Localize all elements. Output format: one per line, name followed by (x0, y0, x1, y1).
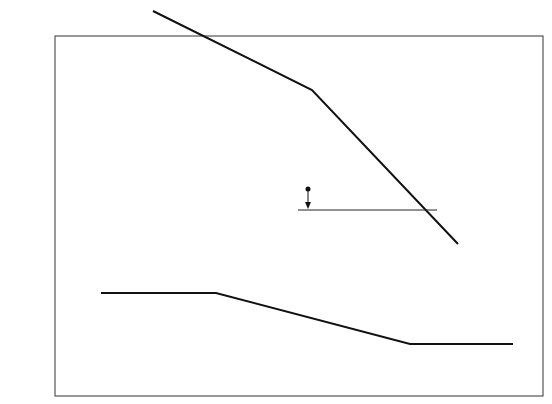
phase-curve (101, 293, 513, 344)
plot-frame (55, 36, 543, 396)
magnitude-curve (153, 11, 458, 244)
bode-plot (0, 0, 552, 404)
arrow-head-icon (305, 202, 311, 209)
